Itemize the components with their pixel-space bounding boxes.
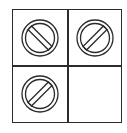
prohibited-slash-icon — [20, 74, 60, 114]
grid-cell-bottom-left — [13, 66, 67, 122]
prohibited-backslash-icon — [20, 18, 60, 58]
grid-cell-top-right — [68, 10, 122, 65]
grid-cell-top-left — [13, 10, 67, 65]
grid-cell-bottom-right-empty — [68, 66, 122, 122]
prohibited-slash-icon — [75, 18, 115, 58]
puzzle-grid — [12, 9, 122, 123]
